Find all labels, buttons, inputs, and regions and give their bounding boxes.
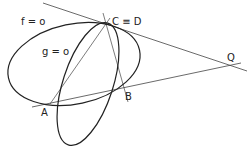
- label-point-cd: C ≡ D: [112, 17, 141, 27]
- line-c-a: [50, 18, 110, 104]
- tangent-line-c-q: [43, 3, 247, 71]
- label-g: g = o: [42, 47, 69, 57]
- label-f: f = o: [21, 17, 45, 27]
- label-point-b: B: [125, 92, 132, 102]
- ellipse-g: [44, 15, 131, 148]
- label-point-q: Q: [227, 53, 235, 63]
- label-point-a: A: [41, 108, 48, 118]
